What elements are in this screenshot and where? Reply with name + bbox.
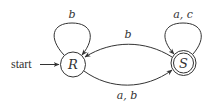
transition-r-r: b <box>54 8 90 55</box>
transition-label: a, c <box>173 8 193 21</box>
state-s: S <box>171 51 196 76</box>
start-indicator: start <box>11 57 59 71</box>
transition-r-s: a, b <box>84 70 172 102</box>
start-label: start <box>11 57 32 71</box>
self-loop-arrow-icon <box>54 23 90 55</box>
arc-arrow-icon <box>84 70 172 85</box>
transition-s-r: b <box>85 28 172 57</box>
transition-label: a, b <box>117 89 138 102</box>
transition-label: b <box>68 8 75 21</box>
state-r: R <box>61 52 86 77</box>
arc-arrow-icon <box>85 44 172 57</box>
transition-s-s: a, c <box>165 8 201 54</box>
state-label: R <box>67 57 78 72</box>
state-label: S <box>179 56 188 71</box>
automaton-diagram: start b a, c b a, b R S <box>0 0 212 105</box>
self-loop-arrow-icon <box>165 23 201 54</box>
transition-label: b <box>124 28 131 41</box>
